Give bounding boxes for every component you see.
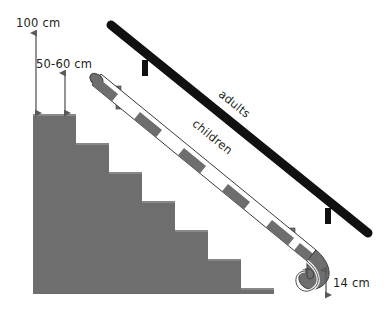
adults-rail-post-1 (142, 60, 148, 76)
dimension-100cm-label: 100 cm (16, 16, 60, 30)
dimension-50-60cm-label: 50-60 cm (36, 57, 92, 71)
handrail-diagram: children adults 100 cm 50-60 cm 14 cm (0, 0, 385, 318)
dimension-50-60cm: 50-60 cm (36, 57, 92, 113)
dimension-14cm: 14 cm (326, 270, 370, 295)
adults-rail-post-2 (325, 208, 331, 224)
dimension-14cm-label: 14 cm (333, 276, 370, 290)
diagram-canvas: children adults 100 cm 50-60 cm 14 cm (0, 0, 385, 318)
